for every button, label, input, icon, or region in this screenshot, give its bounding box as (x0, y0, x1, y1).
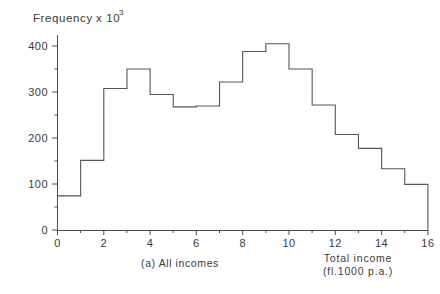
x-tick-label-8: 8 (239, 237, 246, 249)
y-axis-title: Frequency (33, 12, 93, 24)
y-tick-label-200: 200 (28, 132, 48, 144)
x-axis-title-line1: Total income (324, 252, 393, 264)
y-tick-label-0: 0 (41, 224, 48, 236)
figure-caption: (a) All incomes (141, 257, 219, 269)
y-tick-label-300: 300 (28, 86, 48, 98)
x-tick-label-12: 12 (329, 237, 342, 249)
x-tick-label-14: 14 (375, 237, 388, 249)
x-tick-label-16: 16 (421, 237, 434, 249)
histogram-plot: Frequency x 10 3 400 300 200 100 0 (0, 0, 440, 294)
x-tick-label-10: 10 (282, 237, 295, 249)
x-tick-label-2: 2 (100, 237, 107, 249)
histogram-outline (58, 44, 428, 231)
x-tick-label-4: 4 (147, 237, 154, 249)
x-tick-label-0: 0 (54, 237, 61, 249)
x-axis-title-line2: (fl.1000 p.a.) (323, 265, 393, 277)
chart-figure: Frequency x 10 3 400 300 200 100 0 (0, 0, 440, 294)
y-tick-label-400: 400 (28, 40, 48, 52)
y-axis-title-suffix: x 10 (96, 12, 120, 24)
y-axis-exponent: 3 (119, 8, 124, 17)
y-tick-label-100: 100 (28, 178, 48, 190)
x-tick-label-6: 6 (193, 237, 200, 249)
y-axis-major-ticks (52, 46, 58, 230)
